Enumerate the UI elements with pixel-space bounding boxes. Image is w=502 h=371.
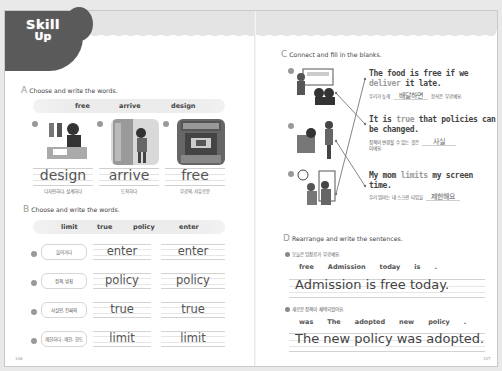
sentence-1-korean: 우리가 늦게 배달하면 음식은 무료예요. xyxy=(369,93,499,100)
fill-blank-2[interactable]: 사실 xyxy=(422,139,456,146)
write-line[interactable]: policy xyxy=(93,273,151,289)
fill-blank-3[interactable]: 제한해요 xyxy=(426,194,460,201)
answer-line-1[interactable]: Admission is free today. xyxy=(289,279,485,298)
write-line[interactable]: limit xyxy=(93,331,151,347)
sentence-3-korean: 우리 엄마는 내 스크린 타임을 제한해요 xyxy=(369,194,499,201)
page-number-right: 107 xyxy=(483,356,491,361)
sentence-1: The food is free if we deliver it late. xyxy=(369,69,495,89)
write-line[interactable]: true xyxy=(161,302,225,318)
logo-line2: Up xyxy=(21,31,65,43)
prompt-2: 새로운 정책이 채택되었어요. xyxy=(285,306,344,312)
write-line[interactable]: limit xyxy=(161,331,225,347)
sentence-2-korean: 정책이 변경될 수 있는 것은 사실 이에요. xyxy=(369,139,499,152)
section-d-title: DRearrange and write the sentences. xyxy=(283,233,403,243)
write-line[interactable]: policy xyxy=(161,273,225,289)
fill-blank-1[interactable]: 배달하면 xyxy=(394,93,428,100)
write-line[interactable]: enter xyxy=(93,244,151,260)
answer-line-2[interactable]: The new policy was adopted. xyxy=(289,333,485,352)
sentence-3: My mom limits my screen time. xyxy=(369,171,497,191)
scrambled-words-2: wasTheadoptednewpolicy. xyxy=(299,318,480,326)
scrambled-words-1: freeAdmissiontodayis. xyxy=(299,263,451,271)
write-line[interactable]: enter xyxy=(161,244,225,260)
sentence-2: It is true that policies can be changed. xyxy=(369,115,497,135)
textbook-spread: Skill Up AChoose and write the words. fr… xyxy=(4,10,498,367)
write-line[interactable]: true xyxy=(93,302,151,318)
prompt-1: 오늘은 입장료가 무료예요. xyxy=(285,251,340,257)
